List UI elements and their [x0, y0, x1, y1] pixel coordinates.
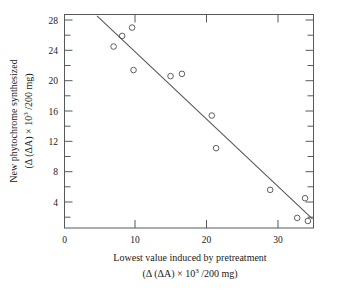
x-axis-title: Lowest value induced by pretreatment (Δ …	[113, 252, 266, 280]
regression-line	[97, 16, 312, 218]
y-axis-right-ticks	[306, 20, 314, 217]
y-axis-title: New phytochrome synthesized (Δ (ΔA) × 10…	[8, 59, 35, 182]
x-tick-label-10: 10	[130, 235, 140, 245]
x-axis-title-line2: (Δ (ΔA) × 103 /200 mg)	[142, 267, 237, 280]
data-point	[168, 73, 174, 79]
y-axis-major-ticks	[65, 20, 73, 202]
y-tick-label-20: 20	[49, 76, 59, 86]
y-tick-label-24: 24	[49, 46, 59, 56]
scatter-plot-figure: 28 24 20 16 12 8 4 0 10 20 30 Lowest val…	[0, 0, 337, 292]
y-tick-label-28: 28	[49, 16, 59, 26]
data-point	[213, 145, 219, 151]
y-axis-title-suffix: /200 mg)	[23, 73, 35, 112]
y-axis-title-line2: (Δ (ΔA) × 103 /200 mg)	[22, 73, 35, 168]
data-point	[111, 44, 117, 50]
y-tick-labels: 28 24 20 16 12 8 4	[49, 16, 59, 208]
data-point	[267, 187, 273, 193]
x-tick-label-30: 30	[273, 235, 283, 245]
y-tick-label-4: 4	[53, 198, 58, 208]
x-tick-label-0: 0	[62, 235, 67, 245]
x-axis-title-suffix: /200 mg)	[199, 268, 238, 280]
fit-line-group	[97, 16, 312, 218]
data-point	[305, 218, 311, 224]
data-points	[111, 25, 311, 224]
y-tick-label-8: 8	[53, 167, 58, 177]
data-point	[209, 113, 215, 119]
y-axis-title-prefix: (Δ (ΔA) × 10	[23, 116, 35, 169]
data-point	[119, 33, 125, 39]
x-axis-ticks	[135, 220, 278, 228]
y-axis-minor-ticks	[65, 35, 71, 217]
x-tick-label-20: 20	[202, 235, 212, 245]
x-axis-title-prefix: (Δ (ΔA) × 10	[142, 268, 195, 280]
x-tick-labels: 0 10 20 30	[62, 235, 283, 245]
plot-frame	[65, 15, 314, 229]
y-tick-label-12: 12	[49, 137, 59, 147]
data-point	[302, 195, 308, 201]
data-point	[294, 215, 300, 221]
y-axis-title-line1: New phytochrome synthesized	[8, 59, 19, 182]
x-axis-title-line1: Lowest value induced by pretreatment	[113, 252, 266, 263]
data-point	[131, 67, 137, 73]
axes-box	[65, 15, 314, 229]
data-point	[179, 71, 185, 77]
plot-svg: 28 24 20 16 12 8 4 0 10 20 30 Lowest val…	[0, 0, 337, 292]
x-axis-top-ticks	[135, 15, 278, 23]
data-point	[129, 25, 135, 31]
y-tick-label-16: 16	[49, 107, 59, 117]
